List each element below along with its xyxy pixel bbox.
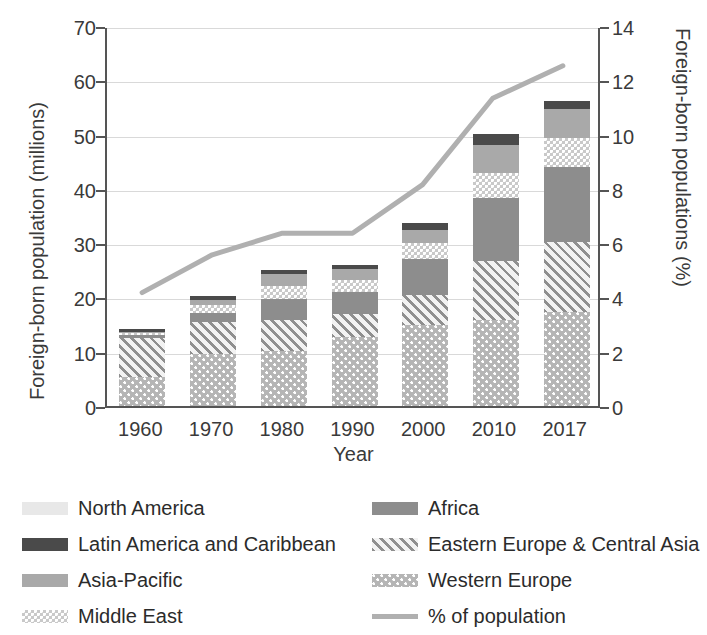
legend-swatch-west bbox=[372, 574, 418, 587]
y-tick-label-left: 50 bbox=[36, 127, 96, 147]
y-tick-label-right: 4 bbox=[612, 289, 672, 309]
y-tick-label-right: 8 bbox=[612, 181, 672, 201]
x-tick-label: 1980 bbox=[242, 418, 322, 440]
legend-label: Middle East bbox=[78, 605, 183, 627]
y-tick-mark-left bbox=[96, 244, 105, 246]
y-tick-mark-left bbox=[96, 190, 105, 192]
x-tick-label: 2000 bbox=[383, 418, 463, 440]
y-tick-label-right: 14 bbox=[612, 18, 672, 38]
legend-swatch-middle bbox=[22, 610, 68, 623]
y-tick-mark-right bbox=[600, 136, 609, 138]
legend-item[interactable]: Africa bbox=[372, 492, 702, 524]
y-tick-label-right: 0 bbox=[612, 398, 672, 418]
y-tick-mark-right bbox=[600, 407, 609, 409]
x-tick-label: 2017 bbox=[525, 418, 605, 440]
y-tick-mark-left bbox=[96, 81, 105, 83]
y-tick-mark-left bbox=[96, 298, 105, 300]
x-tick-label: 1970 bbox=[171, 418, 251, 440]
y-tick-mark-right bbox=[600, 244, 609, 246]
legend-swatch-latin bbox=[22, 538, 68, 551]
y-tick-label-right: 12 bbox=[612, 72, 672, 92]
y-tick-mark-right bbox=[600, 353, 609, 355]
legend-swatch-asia bbox=[22, 574, 68, 587]
x-tick-label: 2010 bbox=[454, 418, 534, 440]
chart-legend: North AmericaLatin America and Caribbean… bbox=[0, 492, 707, 635]
legend-label: Africa bbox=[428, 497, 479, 519]
y-tick-label-left: 40 bbox=[36, 181, 96, 201]
y-tick-mark-left bbox=[96, 407, 105, 409]
legend-item[interactable]: Latin America and Caribbean bbox=[22, 528, 352, 560]
legend-item[interactable]: Western Europe bbox=[372, 564, 702, 596]
legend-swatch-line bbox=[372, 614, 418, 619]
y-tick-mark-right bbox=[600, 81, 609, 83]
plot-area bbox=[105, 28, 600, 408]
y-tick-label-right: 2 bbox=[612, 344, 672, 364]
legend-item[interactable]: Asia-Pacific bbox=[22, 564, 352, 596]
y-tick-label-left: 30 bbox=[36, 235, 96, 255]
legend-item[interactable]: North America bbox=[22, 492, 352, 524]
legend-swatch-east bbox=[372, 538, 418, 551]
x-tick-label: 1960 bbox=[100, 418, 180, 440]
legend-column-right: AfricaEastern Europe & Central AsiaWeste… bbox=[372, 492, 702, 635]
y-tick-mark-right bbox=[600, 190, 609, 192]
legend-item[interactable]: Middle East bbox=[22, 600, 352, 632]
y-tick-label-left: 70 bbox=[36, 18, 96, 38]
y-tick-mark-right bbox=[600, 298, 609, 300]
line-path-percent-of-population bbox=[142, 66, 563, 293]
y-tick-mark-right bbox=[600, 27, 609, 29]
legend-swatch-north bbox=[22, 502, 68, 515]
y-tick-mark-left bbox=[96, 136, 105, 138]
legend-label: North America bbox=[78, 497, 205, 519]
y-tick-label-left: 20 bbox=[36, 289, 96, 309]
y-tick-label-left: 60 bbox=[36, 72, 96, 92]
legend-label: Latin America and Caribbean bbox=[78, 533, 336, 555]
y-tick-label-right: 10 bbox=[612, 127, 672, 147]
y-tick-mark-left bbox=[96, 353, 105, 355]
legend-swatch-africa bbox=[372, 502, 418, 515]
legend-column-left: North AmericaLatin America and Caribbean… bbox=[22, 492, 352, 635]
y-axis-title-right: Foreign-born populations (%) bbox=[671, 28, 694, 287]
y-tick-label-left: 0 bbox=[36, 398, 96, 418]
percent-of-population-line bbox=[107, 28, 598, 406]
legend-label: Western Europe bbox=[428, 569, 572, 591]
legend-label: Asia-Pacific bbox=[78, 569, 182, 591]
legend-label: Eastern Europe & Central Asia bbox=[428, 533, 699, 555]
y-tick-mark-left bbox=[96, 27, 105, 29]
y-tick-label-right: 6 bbox=[612, 235, 672, 255]
y-tick-label-left: 10 bbox=[36, 344, 96, 364]
legend-label: % of population bbox=[428, 605, 566, 627]
x-axis-title: Year bbox=[0, 443, 707, 466]
x-tick-label: 1990 bbox=[313, 418, 393, 440]
chart-canvas: Foreign-born population (millions) Forei… bbox=[0, 0, 707, 635]
legend-item[interactable]: % of population bbox=[372, 600, 702, 632]
legend-item[interactable]: Eastern Europe & Central Asia bbox=[372, 528, 702, 560]
